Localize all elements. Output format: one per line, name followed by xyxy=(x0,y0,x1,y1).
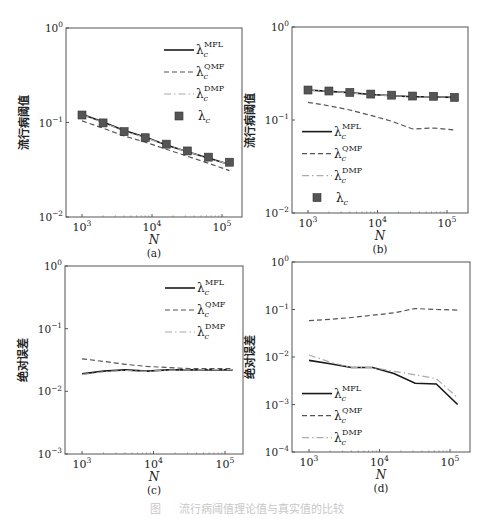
data-marker xyxy=(367,90,375,98)
svg-text:103: 103 xyxy=(73,219,92,234)
x-axis-label: N xyxy=(374,229,386,243)
svg-text:λcMFL: λcMFL xyxy=(334,384,362,403)
svg-text:105: 105 xyxy=(216,456,235,471)
data-marker xyxy=(346,88,354,96)
svg-text:10−1: 10−1 xyxy=(38,321,62,335)
svg-text:105: 105 xyxy=(441,454,460,469)
series-line-dashdot xyxy=(309,355,458,398)
svg-text:λcQMF: λcQMF xyxy=(197,300,226,319)
svg-text:103: 103 xyxy=(299,215,318,230)
plot-frame xyxy=(292,27,468,213)
data-marker xyxy=(183,147,191,155)
data-marker xyxy=(99,119,107,127)
svg-text:10−3: 10−3 xyxy=(38,446,63,460)
svg-text:104: 104 xyxy=(368,215,387,230)
legend: λcMFLλcQMFλcDMP xyxy=(302,384,363,447)
data-marker xyxy=(120,128,128,136)
svg-text:10−2: 10−2 xyxy=(265,205,289,219)
svg-text:λcMFL: λcMFL xyxy=(197,278,225,297)
chart-panel-c: 10310410510−310−210−1100N(c)绝对误差λcMFLλcQ… xyxy=(16,258,243,496)
svg-text:103: 103 xyxy=(300,454,319,469)
svg-text:λc: λc xyxy=(336,191,349,207)
svg-text:100: 100 xyxy=(44,258,62,272)
panel-label: (d) xyxy=(374,482,389,494)
svg-text:105: 105 xyxy=(438,215,457,230)
y-axis-label: 流行病阈值 xyxy=(243,93,257,148)
svg-text:λcQMF: λcQMF xyxy=(334,144,363,163)
x-axis-label: N xyxy=(148,233,160,247)
svg-text:λcDMP: λcDMP xyxy=(196,84,225,103)
y-axis-label: 流行病阈值 xyxy=(17,95,31,150)
series-line-dashed xyxy=(82,359,233,369)
series-line-dashed xyxy=(308,102,455,130)
x-axis-label: N xyxy=(375,468,387,482)
data-marker xyxy=(388,91,396,99)
data-marker xyxy=(226,158,234,166)
svg-text:λc: λc xyxy=(198,109,211,125)
series-line-dashed xyxy=(82,121,230,171)
legend: λcMFLλcQMFλcDMPλc xyxy=(302,122,363,207)
svg-text:10−4: 10−4 xyxy=(265,444,290,458)
svg-text:100: 100 xyxy=(271,254,289,268)
plot-frame xyxy=(66,28,242,217)
svg-text:10−2: 10−2 xyxy=(38,384,62,398)
svg-text:10−1: 10−1 xyxy=(265,302,289,316)
data-marker xyxy=(141,134,149,142)
chart-panel-d: 10310410510−410−310−210−1100N(d)绝对误差λcMF… xyxy=(243,254,470,494)
svg-text:10−1: 10−1 xyxy=(265,112,289,126)
panel-label: (a) xyxy=(147,247,161,259)
data-marker xyxy=(204,153,212,161)
plot-frame xyxy=(292,262,470,452)
svg-text:λcDMP: λcDMP xyxy=(334,166,363,185)
data-marker xyxy=(430,92,438,100)
svg-text:λcQMF: λcQMF xyxy=(334,406,363,425)
svg-text:λcQMF: λcQMF xyxy=(196,62,225,81)
data-marker xyxy=(162,140,170,148)
figure-canvas: 10310410510−210−1100N(a)流行病阈值λcMFLλcQMFλ… xyxy=(0,0,494,519)
legend: λcMFLλcQMFλcDMP xyxy=(165,278,226,341)
svg-text:103: 103 xyxy=(73,456,92,471)
y-axis-label: 绝对误差 xyxy=(243,335,257,379)
panel-label: (b) xyxy=(373,243,388,255)
series-line-solid xyxy=(309,360,458,404)
svg-text:100: 100 xyxy=(271,19,289,33)
svg-text:λcMFL: λcMFL xyxy=(196,40,224,59)
data-marker xyxy=(409,92,417,100)
svg-text:104: 104 xyxy=(143,219,162,234)
data-marker xyxy=(450,93,458,101)
svg-text:10−1: 10−1 xyxy=(39,115,63,129)
svg-text:104: 104 xyxy=(370,454,389,469)
data-marker xyxy=(325,87,333,95)
series-line-dashed xyxy=(309,309,458,321)
chart-panel-a: 10310410510−210−1100N(a)流行病阈值λcMFLλcQMFλ… xyxy=(17,20,242,259)
y-axis-label: 绝对误差 xyxy=(16,338,30,382)
svg-text:104: 104 xyxy=(144,456,163,471)
x-axis-label: N xyxy=(148,470,160,484)
data-marker xyxy=(304,86,312,94)
svg-text:λcMFL: λcMFL xyxy=(334,122,362,141)
svg-text:100: 100 xyxy=(45,20,63,34)
legend: λcMFLλcQMFλcDMPλc xyxy=(164,40,225,125)
chart-panel-b: 10310410510−210−1100N(b)流行病阈值λcMFLλcQMFλ… xyxy=(243,19,468,255)
svg-text:105: 105 xyxy=(213,219,232,234)
svg-text:10−2: 10−2 xyxy=(39,209,63,223)
panel-label: (c) xyxy=(147,484,161,496)
data-marker xyxy=(78,111,86,119)
figure-caption: 图 流行病阈值理论值与真实值的比较 xyxy=(0,500,494,516)
svg-text:10−3: 10−3 xyxy=(265,397,290,411)
svg-text:10−2: 10−2 xyxy=(265,349,289,363)
svg-text:λcDMP: λcDMP xyxy=(334,428,363,447)
svg-text:λcDMP: λcDMP xyxy=(197,322,226,341)
